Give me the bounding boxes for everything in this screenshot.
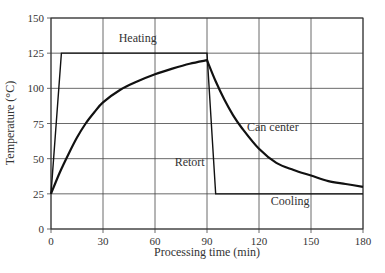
- y-tick-label: 0: [39, 223, 45, 235]
- y-tick-label: 25: [33, 188, 45, 200]
- y-tick-label: 100: [28, 82, 45, 94]
- y-tick-label: 150: [28, 12, 45, 24]
- grid-lines: [51, 18, 363, 229]
- annotation-can-center: Can center: [247, 120, 299, 134]
- temperature-chart: 03060901201501800255075100125150 Heating…: [0, 0, 385, 273]
- annotation-heating: Heating: [119, 31, 157, 45]
- x-tick-label: 180: [355, 235, 372, 247]
- x-axis-label: Processing time (min): [154, 245, 260, 259]
- x-tick-label: 0: [48, 235, 54, 247]
- annotations: HeatingRetortCan centerCooling: [119, 31, 310, 208]
- y-tick-label: 50: [33, 153, 45, 165]
- x-tick-label: 30: [98, 235, 110, 247]
- axes: 03060901201501800255075100125150: [28, 12, 372, 247]
- y-axis-label: Temperature (°C): [3, 81, 17, 165]
- x-tick-label: 150: [303, 235, 320, 247]
- y-tick-label: 75: [33, 118, 45, 130]
- annotation-cooling: Cooling: [271, 194, 310, 208]
- annotation-retort: Retort: [175, 155, 206, 169]
- y-tick-label: 125: [28, 47, 45, 59]
